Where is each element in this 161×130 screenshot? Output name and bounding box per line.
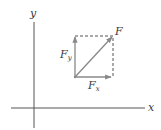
f-arrow [75,37,112,77]
diagram-canvas [0,0,161,130]
fy-label: Fy [60,49,72,62]
fx-sub: x [96,85,100,93]
vector-diagram: y x F Fy Fx [0,0,161,130]
fy-sub: y [68,54,72,62]
fx-base: F [88,79,96,92]
x-axis-label: x [148,102,154,113]
f-label: F [115,26,123,37]
fx-label: Fx [88,80,100,93]
fy-base: F [60,48,68,61]
origin-point [74,76,76,78]
y-axis-label: y [30,8,36,19]
